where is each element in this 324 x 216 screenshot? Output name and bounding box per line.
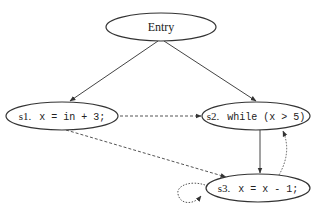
dependence-graph: Entry s1. x = in + 3; s2. while (x > 5) … bbox=[0, 0, 324, 216]
node-s1-code: x = in + 3; bbox=[39, 112, 105, 123]
node-entry-label: Entry bbox=[148, 20, 175, 34]
node-s1-prefix: s1. bbox=[19, 110, 32, 122]
node-s1[interactable]: s1. x = in + 3; bbox=[6, 102, 118, 130]
node-entry[interactable]: Entry bbox=[106, 13, 216, 41]
edge-s1-to-s3 bbox=[66, 130, 226, 177]
node-s2[interactable]: s2. while (x > 5) bbox=[202, 102, 310, 130]
node-s3-code: x = x - 1; bbox=[238, 184, 298, 195]
edge-s3-to-s2 bbox=[279, 131, 287, 175]
edge-s3-self-loop bbox=[178, 183, 205, 202]
node-s2-prefix: s2. bbox=[207, 110, 220, 122]
node-s2-code: while (x > 5) bbox=[227, 112, 305, 123]
edge-entry-to-s2 bbox=[164, 41, 256, 101]
node-s3[interactable]: s3. x = x - 1; bbox=[206, 174, 310, 202]
edge-entry-to-s1 bbox=[70, 41, 158, 101]
node-s3-prefix: s3. bbox=[218, 182, 231, 194]
